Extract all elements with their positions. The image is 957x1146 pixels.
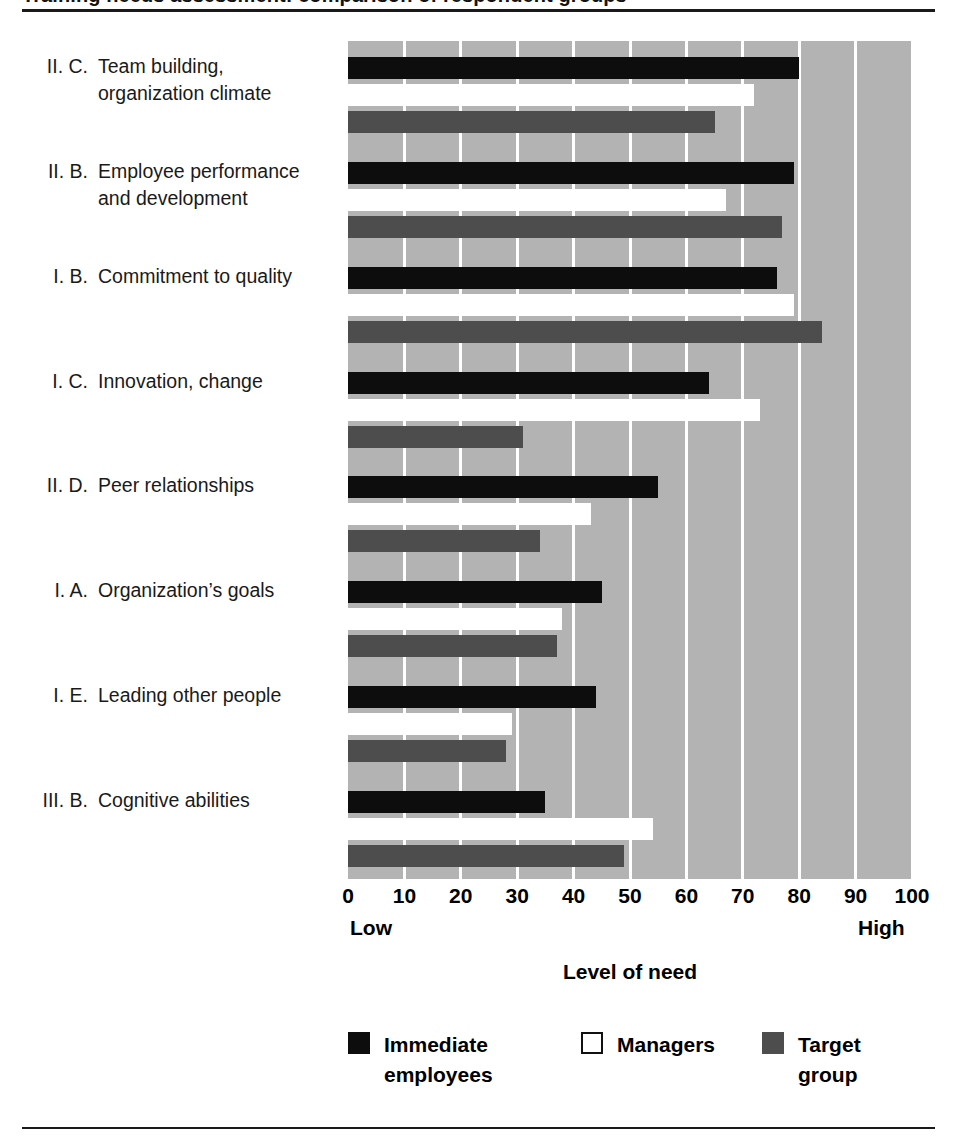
category-number: I. E. — [24, 682, 98, 709]
x-tick-label: 20 — [449, 884, 472, 908]
category-label: I. E.Leading other people — [24, 682, 336, 709]
category-label: III. B.Cognitive abilities — [24, 787, 336, 814]
bar-immediate-employees — [348, 57, 799, 79]
bar-target-group — [348, 635, 557, 657]
x-tick-label: 100 — [894, 884, 929, 908]
x-tick-label: 80 — [788, 884, 811, 908]
bar-target-group — [348, 426, 523, 448]
category-text: Commitment to quality — [98, 263, 320, 290]
bar-target-group — [348, 321, 822, 343]
bar-managers — [348, 608, 562, 630]
bar-managers — [348, 713, 512, 735]
legend-swatch-immediate — [348, 1032, 370, 1054]
bar-managers — [348, 84, 754, 106]
legend-swatch-managers — [581, 1032, 603, 1054]
bar-target-group — [348, 845, 624, 867]
bar-immediate-employees — [348, 267, 777, 289]
x-tick-label: 50 — [618, 884, 641, 908]
bar-target-group — [348, 740, 506, 762]
bar-group — [348, 162, 912, 238]
category-label: II. C.Team building,organization climate — [24, 53, 336, 107]
bar-managers — [348, 503, 591, 525]
bar-target-group — [348, 111, 715, 133]
bar-target-group — [348, 530, 540, 552]
category-label: I. B.Commitment to quality — [24, 263, 336, 290]
bar-immediate-employees — [348, 372, 709, 394]
category-number: I. C. — [24, 368, 98, 395]
bar-managers — [348, 189, 726, 211]
chart-legend: ImmediateemployeesManagersTarget group — [348, 1030, 948, 1110]
top-rule — [22, 9, 935, 12]
bar-managers — [348, 399, 760, 421]
category-text: Innovation, change — [98, 368, 320, 395]
chart-figure: Training needs assessment: comparison of… — [0, 0, 957, 1146]
legend-label-target: Target group — [798, 1030, 861, 1090]
category-number: I. B. — [24, 263, 98, 290]
bottom-rule — [22, 1127, 935, 1129]
bar-target-group — [348, 216, 782, 238]
bar-group — [348, 476, 912, 552]
category-text: Peer relationships — [98, 472, 320, 499]
x-axis-high-label: High — [858, 916, 905, 940]
x-tick-label: 40 — [562, 884, 585, 908]
category-text: Cognitive abilities — [98, 787, 320, 814]
x-tick-label: 70 — [731, 884, 754, 908]
bar-group — [348, 57, 912, 133]
legend-label-immediate: Immediateemployees — [384, 1030, 493, 1090]
category-number: II. B. — [24, 158, 98, 185]
bar-managers — [348, 294, 794, 316]
x-tick-label: 0 — [342, 884, 354, 908]
bar-immediate-employees — [348, 581, 602, 603]
bar-immediate-employees — [348, 686, 596, 708]
category-label: I. C.Innovation, change — [24, 368, 336, 395]
category-number: I. A. — [24, 577, 98, 604]
x-axis-ticks: 0102030405060708090100 — [348, 884, 912, 914]
category-text: Employee performanceand development — [98, 158, 320, 212]
legend-label-managers: Managers — [617, 1030, 715, 1060]
bar-group — [348, 267, 912, 343]
x-tick-label: 60 — [675, 884, 698, 908]
bar-immediate-employees — [348, 476, 658, 498]
category-number: III. B. — [24, 787, 98, 814]
legend-swatch-target — [762, 1032, 784, 1054]
x-tick-label: 30 — [506, 884, 529, 908]
bar-immediate-employees — [348, 791, 545, 813]
category-number: II. C. — [24, 53, 98, 80]
category-label: I. A.Organization’s goals — [24, 577, 336, 604]
x-tick-label: 90 — [844, 884, 867, 908]
category-text: Leading other people — [98, 682, 320, 709]
plot-area — [348, 41, 912, 879]
category-label: II. B.Employee performanceand developmen… — [24, 158, 336, 212]
x-tick-label: 10 — [393, 884, 416, 908]
bar-managers — [348, 818, 653, 840]
category-label: II. D.Peer relationships — [24, 472, 336, 499]
category-text: Organization’s goals — [98, 577, 320, 604]
x-axis-low-label: Low — [350, 916, 392, 940]
chart-title-clipped: Training needs assessment: comparison of… — [22, 0, 782, 8]
bar-immediate-employees — [348, 162, 794, 184]
category-text: Team building,organization climate — [98, 53, 320, 107]
bar-group — [348, 791, 912, 867]
bar-group — [348, 581, 912, 657]
x-axis-title: Level of need — [348, 960, 912, 984]
bar-group — [348, 686, 912, 762]
bar-group — [348, 372, 912, 448]
category-number: II. D. — [24, 472, 98, 499]
